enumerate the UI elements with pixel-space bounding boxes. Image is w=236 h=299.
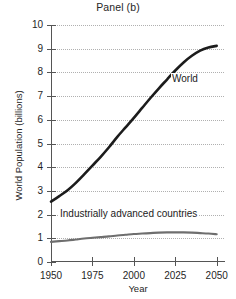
series-line-industrially-advanced-countries [51,232,217,241]
y-tick-label: 0 [37,256,43,267]
y-axis-title: World Population (billions) [13,66,24,226]
chart-title: Panel (b) [0,1,236,13]
y-tick-label: 6 [37,114,43,125]
x-tick-label: 1975 [81,270,103,281]
y-tick-label: 10 [32,19,43,30]
y-tick-label: 3 [37,185,43,196]
plot-area: 012345678910 19501975200020252050 World … [51,25,225,262]
y-tick-label: 9 [37,43,43,54]
series-line-world [51,46,217,202]
x-tick-label: 2000 [123,270,145,281]
chart-figure: Panel (b) World Population (billions) 01… [0,0,236,299]
y-tick-label: 4 [37,161,43,172]
y-tick-label: 8 [37,66,43,77]
x-tick-label: 1950 [40,270,62,281]
x-tick-label: 2025 [164,270,186,281]
series-label-world: World [171,73,199,84]
x-axis-title: Year [51,283,225,294]
y-tick-label: 7 [37,90,43,101]
y-tick-label: 2 [37,209,43,220]
y-tick-label: 5 [37,138,43,149]
series-label-industrially-advanced-countries: Industrially advanced countries [59,208,198,219]
x-tick-label: 2050 [206,270,228,281]
y-tick-label: 1 [37,232,43,243]
series-lines [51,25,225,262]
